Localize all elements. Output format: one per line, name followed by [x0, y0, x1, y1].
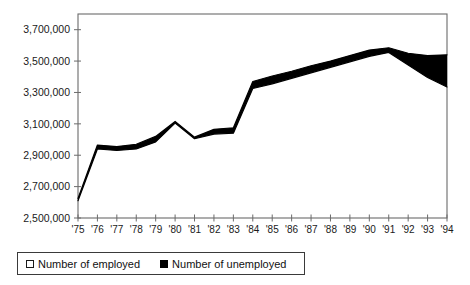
legend-item-employed: Number of employed: [26, 258, 140, 270]
y-tick-label: 2,900,000: [23, 149, 70, 161]
x-tick-label: '80: [169, 224, 182, 235]
x-tick-label: '94: [440, 224, 453, 235]
x-tick-label: '81: [188, 224, 201, 235]
filled-square-icon: [160, 260, 168, 268]
legend-label-employed: Number of employed: [38, 258, 140, 270]
x-tick-label: '86: [285, 224, 298, 235]
x-tick-label: '76: [91, 224, 104, 235]
y-tick-label: 2,700,000: [23, 180, 70, 192]
x-tick-label: '82: [207, 224, 220, 235]
x-tick-label: '75: [71, 224, 84, 235]
x-tick-label: '93: [421, 224, 434, 235]
y-axis-tick-labels: 2,500,0002,700,0002,900,0003,100,0003,30…: [23, 23, 70, 223]
y-tick-label: 3,500,000: [23, 55, 70, 67]
x-tick-label: '83: [227, 224, 240, 235]
x-tick-label: '84: [246, 224, 259, 235]
open-square-icon: [26, 260, 34, 268]
x-tick-label: '91: [382, 224, 395, 235]
y-tick-label: 3,300,000: [23, 86, 70, 98]
x-tick-label: '78: [130, 224, 143, 235]
x-tick-label: '79: [149, 224, 162, 235]
legend-item-unemployed: Number of unemployed: [160, 258, 286, 270]
x-tick-label: '87: [305, 224, 318, 235]
x-tick-label: '77: [110, 224, 123, 235]
x-tick-label: '89: [343, 224, 356, 235]
labour-force-area-chart: 2,500,0002,700,0002,900,0003,100,0003,30…: [0, 0, 470, 285]
x-tick-label: '88: [324, 224, 337, 235]
x-axis-tick-labels: '75'76'77'78'79'80'81'82'83'84'85'86'87'…: [71, 224, 453, 235]
x-tick-label: '85: [266, 224, 279, 235]
y-tick-label: 2,500,000: [23, 212, 70, 224]
y-tick-label: 3,700,000: [23, 23, 70, 35]
x-tick-label: '92: [402, 224, 415, 235]
chart-legend: Number of employed Number of unemployed: [17, 252, 305, 275]
y-tick-label: 3,100,000: [23, 118, 70, 130]
legend-label-unemployed: Number of unemployed: [172, 258, 286, 270]
x-tick-label: '90: [363, 224, 376, 235]
plot-frame: [78, 14, 447, 218]
